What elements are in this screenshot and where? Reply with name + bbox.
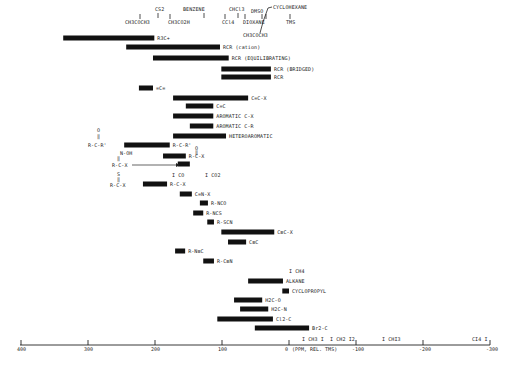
range-bar: [143, 182, 167, 187]
range-bar: [221, 67, 271, 72]
ref-chi3: I CHI3: [382, 336, 401, 342]
ref-ch2i2: I CH2 I2: [330, 336, 355, 342]
range-bar: [193, 211, 203, 216]
ref-dioxane: DIOXANE: [243, 19, 265, 25]
ref-co2: I CO2: [205, 172, 221, 178]
x-tick-label: -300: [486, 346, 498, 352]
range-bar: [180, 192, 192, 197]
ref-cyclohexane: CYCLOHEXANE: [273, 4, 307, 10]
top-reference-markers: CH3COCH3 CS2 CH3CO2H BENZENE CCl4 CHCl3 …: [125, 4, 307, 38]
bar-label: HETEROAROMATIC: [229, 133, 273, 139]
range-bar: [200, 201, 208, 206]
bar-label: RCR (cation): [223, 44, 260, 50]
svg-text:‖: ‖: [97, 133, 100, 140]
range-bar: [173, 114, 213, 119]
bars-layer: [63, 36, 309, 331]
ref-acetone-1: CH3COCH3: [125, 19, 150, 25]
x-tick-label: 400: [17, 346, 26, 352]
label-ketone: R-C-R': [88, 142, 107, 148]
range-bar: [173, 96, 248, 101]
x-tick-label: 300: [84, 346, 93, 352]
range-bar: [126, 45, 220, 50]
range-bar: [255, 326, 309, 331]
bar-label: H2C-N: [271, 306, 287, 312]
range-bar: [139, 86, 153, 91]
bar-label: R-SCN: [217, 219, 233, 225]
bar-label: R-C≡N: [217, 258, 233, 264]
range-bar: [153, 56, 229, 61]
bar-label: C=N-X: [195, 191, 211, 197]
range-bar: [124, 143, 170, 148]
bar-label: ALKANE: [286, 278, 305, 284]
chemical-shift-chart: R3C+RCR (cation)RCR (EQUILIBRATING)RCR (…: [0, 0, 506, 366]
range-bar: [175, 249, 185, 254]
bar-label: H2C-O: [265, 297, 281, 303]
range-bar: [63, 36, 154, 41]
bar-label: R-N≡C: [188, 248, 204, 254]
ref-cs2: CS2: [155, 6, 164, 12]
range-bar: [186, 104, 213, 109]
bar-label: RCR: [274, 74, 284, 80]
label-acyl: R-C-X: [112, 162, 128, 168]
range-bar: [178, 162, 190, 167]
range-bar: [248, 279, 283, 284]
svg-text:‖: ‖: [195, 149, 198, 156]
bar-label: AROMATIC C-X: [216, 113, 253, 119]
label-thio: R-C-X: [110, 182, 126, 188]
x-axis-title: (PPM, REL. TMS): [292, 346, 337, 352]
bar-label: C=C-X: [251, 95, 267, 101]
bar-label: C≡C: [249, 239, 258, 245]
bar-label: RCR (BRIDGED): [274, 66, 314, 72]
range-bar: [234, 298, 262, 303]
bar-label: R-NCO: [211, 200, 227, 206]
ref-benzene: BENZENE: [183, 6, 205, 12]
ref-tms: TMS: [286, 19, 295, 25]
x-tick-label: 100: [218, 346, 227, 352]
label-oxime: N-OH: [120, 150, 132, 156]
bar-label: R-C-R': [173, 142, 192, 148]
ref-acetic-acid: CH3CO2H: [168, 19, 190, 25]
bar-label: AROMATIC C-R: [216, 123, 254, 129]
svg-text:‖: ‖: [117, 155, 120, 162]
bar-label: R-NCS: [206, 210, 222, 216]
ref-chcl3: CHCl3: [229, 6, 245, 12]
ref-acetone-2: CH3COCH3: [243, 32, 268, 38]
ref-ccl4: CCl4: [222, 19, 234, 25]
range-bar: [221, 230, 274, 235]
bar-label: =C=: [156, 85, 165, 91]
ref-ci4: CI4 I: [472, 336, 488, 342]
bar-label: R-C-X: [170, 181, 186, 187]
range-bar: [207, 220, 214, 225]
x-tick-label: -200: [419, 346, 431, 352]
range-bar: [173, 134, 226, 139]
ref-ch4: I CH4: [289, 268, 305, 274]
ref-ch3i: I CH3 I: [302, 336, 324, 342]
range-bar: [221, 75, 271, 80]
x-tick-label: -100: [352, 346, 364, 352]
range-bar: [163, 154, 186, 159]
ref-co: I CO: [172, 172, 184, 178]
ref-dmso: DMSO: [251, 8, 263, 14]
range-bar: [190, 124, 213, 129]
range-bar: [217, 317, 273, 322]
bar-label: R3C+: [157, 35, 169, 41]
range-bar: [203, 259, 214, 264]
bar-label: C≡C-X: [277, 229, 293, 235]
bar-label: CYCLOPROPYL: [292, 288, 326, 294]
x-tick-label: 0: [285, 346, 288, 352]
range-bar: [282, 289, 289, 294]
range-bar: [228, 240, 246, 245]
bar-label: C=C: [216, 103, 225, 109]
bar-label: RCR (EQUILIBRATING): [232, 55, 291, 61]
x-axis: 4003002001000-100-200-300 (PPM, REL. TMS…: [17, 340, 498, 352]
bar-label: Br2-C: [312, 325, 328, 331]
bar-label: Cl2-C: [276, 316, 292, 322]
range-bar: [240, 307, 268, 312]
x-tick-label: 200: [151, 346, 160, 352]
